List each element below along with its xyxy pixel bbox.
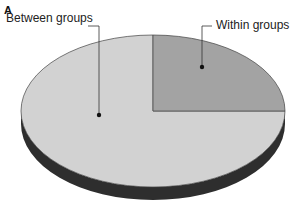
callout-dot-between <box>97 113 101 117</box>
slice-within-groups <box>153 35 285 111</box>
callout-dot-within <box>200 65 204 69</box>
pie-chart <box>0 0 296 222</box>
